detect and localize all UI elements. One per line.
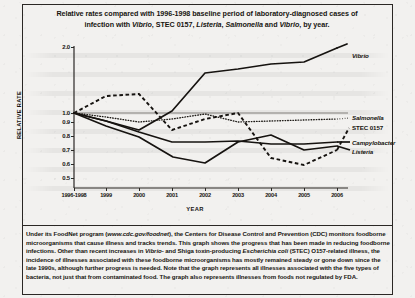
x-axis-title: YEAR xyxy=(60,206,330,212)
frame-bottom-rule xyxy=(22,294,393,295)
frame-left-rule xyxy=(22,4,23,295)
x-tick-label-2004: 2004 xyxy=(253,192,289,198)
leader-line-salmonella xyxy=(337,118,350,119)
title-organism-salmonella: Salmonella xyxy=(225,20,262,29)
paper-bleedthrough-texture xyxy=(24,46,390,196)
y-tick-mark-2-0 xyxy=(71,47,74,48)
x-tick-label-2006: 2006 xyxy=(319,192,355,198)
y-tick-label-0-7: 0.7 xyxy=(48,147,70,153)
y-axis-title: RELATIVE RATE xyxy=(16,80,22,150)
y-tick-label-1-0: 1.0 xyxy=(48,110,70,116)
title-organism-vibrio: Vibrio xyxy=(279,20,299,29)
y-tick-mark-0-6 xyxy=(71,164,74,165)
x-tick-mark-2 xyxy=(139,188,140,191)
figure-title-line2-suffix: , by year. xyxy=(299,20,329,29)
caption-divider-rule xyxy=(22,225,393,226)
y-tick-mark-0-5 xyxy=(71,178,74,179)
y-tick-label-0-8: 0.8 xyxy=(48,133,70,139)
series-label-vibrio: Vibrio xyxy=(352,52,369,59)
x-tick-label-2000: 2000 xyxy=(121,192,157,198)
caption-seg-1: Under its FoodNet program ( xyxy=(26,230,107,237)
x-tick-label-2001: 2001 xyxy=(154,192,190,198)
y-tick-label-0-6: 0.6 xyxy=(48,161,70,167)
y-tick-mark-0-7 xyxy=(71,150,74,151)
caption-seg-3: - and Shiga toxin-producing xyxy=(162,247,243,254)
caption-italic-vibrio: Vibrio xyxy=(145,247,162,254)
title-sep-3: and xyxy=(263,20,280,29)
x-tick-mark-7 xyxy=(304,188,305,191)
chart-svg-canvas xyxy=(0,0,415,230)
x-tick-mark-0 xyxy=(74,188,75,191)
title-organism-campylobacter: Vibrio xyxy=(132,20,152,29)
figure-title-line1: Relative rates compared with 1996-1998 b… xyxy=(56,9,357,18)
y-tick-label-0-5: 0.5 xyxy=(48,175,70,181)
leader-line-stec-0157 xyxy=(337,128,349,150)
x-tick-mark-1 xyxy=(106,188,107,191)
leader-line-listeria xyxy=(337,146,350,150)
leader-line-vibrio xyxy=(337,44,347,48)
title-organism-listeria: Listeria xyxy=(196,20,221,29)
title-sep-1: , STEC 0157, xyxy=(152,20,197,29)
frame-top-rule xyxy=(22,4,393,5)
y-tick-label-2-0: 2.0 xyxy=(48,44,70,50)
x-tick-mark-6 xyxy=(271,188,272,191)
series-line-vibrio xyxy=(74,48,337,130)
series-line-salmonella xyxy=(74,113,337,122)
series-line-listeria xyxy=(74,113,337,163)
x-tick-mark-8 xyxy=(337,188,338,191)
frame-right-rule xyxy=(392,4,393,295)
x-tick-label-2003: 2003 xyxy=(220,192,256,198)
series-label-listeria: Listeria xyxy=(352,148,373,155)
figure-caption: Under its FoodNet program (www.cdc.gov/f… xyxy=(26,230,390,281)
figure-page: Relative rates compared with 1996-1998 b… xyxy=(0,0,415,298)
series-line-campylobacter xyxy=(74,113,337,144)
caption-italic-ecoli: Escherichia coli xyxy=(243,247,288,254)
x-tick-label-2002: 2002 xyxy=(187,192,223,198)
y-tick-mark-1-0 xyxy=(71,113,74,114)
y-tick-label-0-9: 0.9 xyxy=(48,119,70,125)
x-tick-mark-3 xyxy=(172,188,173,191)
series-line-stec-0157 xyxy=(74,94,337,165)
series-label-campylobacter: Campylobacter xyxy=(352,139,395,146)
figure-title: Relative rates compared with 1996-1998 b… xyxy=(26,9,388,30)
y-tick-mark-0-8 xyxy=(71,136,74,137)
series-label-salmonella: Salmonella xyxy=(352,114,384,121)
caption-url: www.cdc.gov/foodnet xyxy=(107,230,169,237)
series-label-stec-0157: STEC 0157 xyxy=(352,124,383,131)
figure-title-line2-prefix: infection with xyxy=(84,20,132,29)
x-tick-mark-5 xyxy=(238,188,239,191)
x-tick-label-2005: 2005 xyxy=(286,192,322,198)
x-tick-mark-4 xyxy=(205,188,206,191)
chart-plot-area: RELATIVE RATE YEAR 2.0 1.0 0.9 0.8 0.7 0… xyxy=(0,0,415,230)
x-tick-label-1999: 1999 xyxy=(88,192,124,198)
x-tick-label-1996-1998: 1996-1998 xyxy=(52,192,96,198)
y-tick-mark-0-9 xyxy=(71,122,74,123)
